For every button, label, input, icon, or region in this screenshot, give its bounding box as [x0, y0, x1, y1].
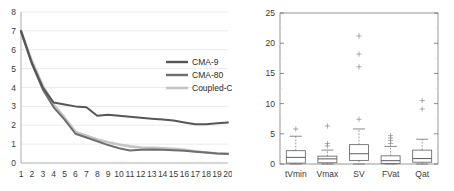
line-chart-svg: 012345678 123456789101112131415161718192…	[0, 0, 232, 191]
y-tick-label: 6	[11, 45, 16, 55]
y-tick-label: 0	[270, 159, 275, 169]
box-plot-boxes-group	[286, 33, 431, 164]
y-tick-label: 7	[11, 26, 16, 36]
box-iqr	[286, 151, 305, 163]
legend-label-1: CMA-80	[192, 70, 223, 80]
x-tick-label: 9	[106, 169, 111, 179]
x-tick-label: 14	[158, 169, 168, 179]
box-plot-category-labels: tVminVmaxSVFVatQat	[285, 169, 430, 179]
x-tick-label: 2	[30, 169, 35, 179]
x-tick-label: 17	[191, 169, 201, 179]
line-chart-legend: CMA-9CMA-80Coupled-CMA	[166, 57, 232, 93]
x-tick-label: 1	[19, 169, 24, 179]
box-plot-y-tick-labels: 0510152025	[266, 8, 276, 169]
y-tick-label: 5	[270, 129, 275, 139]
x-tick-label: 3	[40, 169, 45, 179]
x-tick-label: 4	[51, 169, 56, 179]
x-tick-label: 8	[95, 169, 100, 179]
box-group-SV	[350, 33, 369, 164]
line-chart-y-tick-labels: 012345678	[11, 7, 16, 168]
y-tick-label: 15	[266, 68, 276, 78]
category-label-Vmax: Vmax	[317, 169, 339, 179]
box-group-Vmax	[318, 123, 337, 164]
x-tick-label: 13	[147, 169, 157, 179]
y-tick-label: 3	[11, 101, 16, 111]
y-tick-label: 4	[11, 83, 16, 93]
y-tick-label: 5	[11, 64, 16, 74]
box-group-FVat	[381, 133, 400, 164]
x-tick-label: 19	[212, 169, 222, 179]
box-group-tVmin	[286, 126, 305, 164]
box-iqr	[381, 156, 400, 164]
x-tick-label: 12	[136, 169, 146, 179]
x-tick-label: 16	[180, 169, 190, 179]
x-tick-label: 15	[169, 169, 179, 179]
y-tick-label: 25	[266, 8, 276, 18]
y-tick-label: 0	[11, 158, 16, 168]
y-tick-label: 1	[11, 139, 16, 149]
y-tick-label: 2	[11, 120, 16, 130]
box-iqr	[350, 145, 369, 161]
category-label-FVat: FVat	[382, 169, 400, 179]
line-chart-panel: 012345678 123456789101112131415161718192…	[0, 0, 232, 191]
category-label-SV: SV	[353, 169, 365, 179]
y-tick-label: 20	[266, 38, 276, 48]
x-tick-label: 11	[126, 169, 135, 179]
x-tick-label: 6	[73, 169, 78, 179]
category-label-tVmin: tVmin	[285, 169, 307, 179]
x-tick-label: 20	[223, 169, 232, 179]
box-plot-panel: 0510152025 tVminVmaxSVFVatQat	[250, 0, 454, 191]
x-tick-label: 10	[114, 169, 124, 179]
x-tick-label: 5	[62, 169, 67, 179]
box-iqr	[318, 156, 337, 163]
y-tick-label: 8	[11, 7, 16, 17]
legend-label-2: Coupled-CMA	[192, 83, 232, 93]
box-plot-svg: 0510152025 tVminVmaxSVFVatQat	[250, 0, 454, 191]
box-group-Qat	[413, 98, 432, 164]
line-chart-x-tick-labels: 1234567891011121314151617181920	[19, 169, 232, 179]
x-tick-label: 18	[201, 169, 211, 179]
y-tick-label: 10	[266, 99, 276, 109]
legend-label-0: CMA-9	[192, 57, 219, 67]
category-label-Qat: Qat	[415, 169, 429, 179]
box-iqr	[413, 150, 432, 162]
x-tick-label: 7	[84, 169, 89, 179]
figure-root: 012345678 123456789101112131415161718192…	[0, 0, 454, 191]
